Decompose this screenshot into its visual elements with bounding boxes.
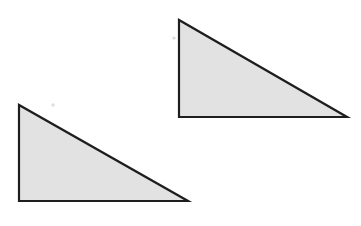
geometry-figure-svg <box>0 0 361 226</box>
figure-canvas <box>0 0 361 226</box>
